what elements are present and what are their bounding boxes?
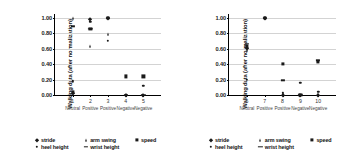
data-point <box>106 16 109 19</box>
x-category-label: Neutral <box>65 106 80 111</box>
dash-marker-icon <box>83 145 88 150</box>
data-point <box>71 90 74 93</box>
left-plot-area: 0.000.200.400.600.801.001Neutral2Positiv… <box>54 14 161 96</box>
marker-glyph <box>259 139 261 142</box>
data-point <box>107 40 109 42</box>
y-tick-label: 0.20 <box>216 77 227 83</box>
right-plot-area: 0.000.200.400.600.801.006Neutral7Positiv… <box>228 14 336 96</box>
x-category-label: Negative <box>291 106 309 111</box>
data-point <box>281 63 284 66</box>
y-tick-mark <box>53 33 55 34</box>
triangle-marker-icon <box>83 138 88 143</box>
figure-container: Walking data (after normalization) 0.000… <box>0 0 345 167</box>
data-point <box>245 45 248 48</box>
y-tick-label: 1.00 <box>42 15 53 21</box>
legend-item: heel height <box>34 144 78 150</box>
x-category-label: Positive <box>100 106 116 111</box>
marker-glyph <box>84 146 88 147</box>
data-point <box>71 26 75 27</box>
legend-item: heel height <box>208 144 253 150</box>
gridline <box>55 49 161 50</box>
data-point <box>141 94 145 95</box>
data-point <box>263 16 266 19</box>
legend-label: heel height <box>41 144 68 150</box>
y-tick-label: 0.80 <box>42 30 53 36</box>
y-tick-mark <box>227 33 229 34</box>
x-tick-label: 7 <box>263 98 266 104</box>
x-tick-label: 10 <box>315 98 321 104</box>
x-tick-label: 6 <box>245 98 248 104</box>
data-point <box>142 85 144 87</box>
x-category-label: Neutral <box>239 106 254 111</box>
square-marker-icon <box>309 138 314 143</box>
marker-glyph <box>209 138 213 142</box>
legend-item: wrist height <box>258 144 305 150</box>
y-tick-label: 0.40 <box>216 61 227 67</box>
x-category-label: Negative <box>309 106 327 111</box>
data-point <box>72 16 74 19</box>
data-point <box>124 75 127 78</box>
x-tick-mark <box>90 95 91 97</box>
y-tick-label: 0.40 <box>42 61 53 67</box>
y-tick-mark <box>227 95 229 96</box>
y-tick-label: 0.00 <box>216 92 227 98</box>
y-tick-mark <box>227 49 229 50</box>
legend-label: heel height <box>215 144 242 150</box>
legend-item: stride <box>34 137 78 143</box>
legend-item: speed <box>134 137 166 143</box>
data-point <box>317 93 319 96</box>
data-point <box>299 81 301 83</box>
data-point <box>317 60 320 63</box>
y-tick-label: 0.00 <box>42 92 53 98</box>
data-point <box>246 49 248 52</box>
y-tick-mark <box>227 64 229 65</box>
marker-glyph <box>35 138 39 142</box>
x-tick-label: 2 <box>89 98 92 104</box>
legend-label: arm swing <box>265 137 291 143</box>
data-point <box>107 33 109 36</box>
dot-marker-icon <box>208 145 213 150</box>
y-tick-label: 0.60 <box>42 46 53 52</box>
legend-item: stride <box>208 137 253 143</box>
y-tick-mark <box>53 80 55 81</box>
x-tick-label: 8 <box>281 98 284 104</box>
x-category-label: Positive <box>274 106 290 111</box>
y-tick-mark <box>53 95 55 96</box>
legend-label: arm swing <box>90 137 116 143</box>
right-panel: Walking data (after normalization) 0.000… <box>172 0 345 167</box>
legend-label: wrist height <box>265 144 294 150</box>
marker-glyph <box>310 138 313 141</box>
left-panel: Walking data (after normalization) 0.000… <box>0 0 172 167</box>
y-tick-mark <box>227 80 229 81</box>
y-tick-mark <box>53 64 55 65</box>
triangle-marker-icon <box>258 138 263 143</box>
legend-item: speed <box>309 137 342 143</box>
dash-marker-icon <box>258 145 263 150</box>
diamond-marker-icon <box>34 138 39 143</box>
y-tick-label: 0.80 <box>216 30 227 36</box>
data-point <box>142 75 145 78</box>
marker-glyph <box>209 146 211 148</box>
dot-marker-icon <box>34 145 39 150</box>
right-legend: stridearm swingspeedheel heightwrist hei… <box>208 137 342 150</box>
y-tick-mark <box>53 18 55 19</box>
legend-item: arm swing <box>258 137 305 143</box>
y-tick-mark <box>53 49 55 50</box>
marker-glyph <box>35 146 37 148</box>
square-marker-icon <box>134 138 139 143</box>
x-tick-label: 5 <box>142 98 145 104</box>
data-point <box>124 94 128 95</box>
data-point <box>89 27 92 30</box>
x-tick-label: 9 <box>299 98 302 104</box>
x-tick-mark <box>108 95 109 97</box>
marker-glyph <box>85 139 87 142</box>
x-category-label: Positive <box>82 106 98 111</box>
right-chart: Walking data (after normalization) 0.000… <box>204 10 338 118</box>
x-tick-mark <box>247 95 248 97</box>
gridline <box>229 33 336 34</box>
marker-glyph <box>258 146 262 147</box>
left-chart: Walking data (after normalization) 0.000… <box>30 10 163 118</box>
x-category-label: Negative <box>134 106 152 111</box>
data-point <box>280 80 284 81</box>
x-category-label: Negative <box>117 106 135 111</box>
